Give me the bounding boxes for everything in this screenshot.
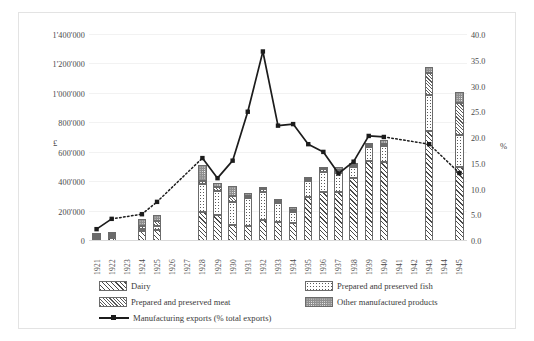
legend-label-dairy: Dairy (131, 281, 151, 291)
line-marker (200, 156, 204, 160)
line-segment (97, 219, 112, 229)
y-axis-left-tick: 800'000 (58, 119, 85, 128)
x-axis-tick: 1925 (153, 259, 162, 275)
y-axis-left-tick: 1'000'000 (52, 89, 85, 98)
y-axis-left-labels: 0200'000400'000600'000800'0001'000'0001'… (19, 35, 85, 241)
line-marker (336, 171, 340, 175)
line-segment (202, 158, 217, 178)
line-marker (276, 123, 280, 127)
y-axis-right-tick: 40.0 (471, 31, 485, 40)
line-segment (233, 112, 248, 161)
legend-swatch-fish-icon (305, 281, 333, 291)
line-marker (291, 122, 295, 126)
line-marker (94, 227, 98, 231)
line-segment (338, 162, 353, 174)
line-marker (382, 135, 386, 139)
line-segment (323, 152, 338, 174)
line-marker (367, 134, 371, 138)
line-marker (140, 212, 144, 216)
plot-area (89, 35, 467, 241)
legend-item-meat: Prepared and preserved meat (99, 297, 231, 307)
x-axis-tick: 1942 (410, 259, 419, 275)
y-axis-right-tick: 10.0 (471, 185, 485, 194)
y-axis-right-tick: 20.0 (471, 134, 485, 143)
x-axis-tick: 1926 (168, 259, 177, 275)
y-axis-right-tick: 15.0 (471, 159, 485, 168)
line-series (89, 35, 467, 241)
legend-row-2: Prepared and preserved meat Other manufa… (79, 297, 499, 313)
line-segment (248, 51, 263, 111)
x-axis-tick: 1922 (108, 259, 117, 275)
x-axis-tick: 1938 (350, 259, 359, 275)
line-marker (246, 110, 250, 114)
x-axis-labels: 1921192219231924192519261927192819291930… (89, 243, 467, 275)
legend-label-meat: Prepared and preserved meat (131, 297, 231, 307)
x-axis-tick: 1930 (229, 259, 238, 275)
chart-legend: Dairy Prepared and preserved fish Prepar… (79, 281, 499, 329)
line-segment (278, 124, 293, 126)
y-axis-left-tick: 600'000 (58, 148, 85, 157)
line-segment (142, 202, 157, 214)
x-axis-tick: 1943 (425, 259, 434, 275)
line-segment (112, 214, 142, 219)
line-segment (218, 161, 233, 179)
legend-label-fish: Prepared and preserved fish (337, 281, 433, 291)
x-axis-tick: 1940 (380, 259, 389, 275)
line-marker (351, 159, 355, 163)
line-marker (230, 158, 234, 162)
legend-item-fish: Prepared and preserved fish (305, 281, 433, 291)
line-segment (429, 144, 459, 173)
line-marker (261, 49, 265, 53)
x-axis-tick: 1932 (259, 259, 268, 275)
chart-frame: 0200'000400'000600'000800'0001'000'0001'… (18, 12, 516, 329)
line-segment (293, 124, 308, 144)
y-axis-left-tick: 0 (81, 237, 85, 246)
line-segment (263, 51, 278, 125)
legend-row-3: Manufacturing exports (% total exports) (79, 313, 499, 329)
y-axis-right-tick: 5.0 (471, 211, 481, 220)
legend-line-marker-icon (99, 314, 129, 322)
x-axis-line (89, 240, 467, 241)
line-segment (369, 136, 384, 137)
legend-swatch-other-icon (305, 297, 333, 307)
legend-label-other: Other manufactured products (337, 297, 438, 307)
legend-swatch-meat-icon (99, 297, 127, 307)
x-axis-tick: 1933 (274, 259, 283, 275)
line-marker (215, 176, 219, 180)
line-segment (157, 158, 202, 202)
line-segment (308, 144, 323, 152)
line-segment (354, 136, 369, 162)
x-axis-tick: 1927 (183, 259, 192, 275)
y-axis-right-labels: 0.05.010.015.020.025.030.035.040.0 (471, 35, 511, 241)
legend-row-1: Dairy Prepared and preserved fish (79, 281, 499, 297)
y-axis-right-tick: 30.0 (471, 82, 485, 91)
y-axis-left-tick: 1'200'000 (52, 60, 85, 69)
x-axis-tick: 1923 (123, 259, 132, 275)
legend-swatch-dairy-icon (99, 281, 127, 291)
y-axis-right-tick: 0.0 (471, 237, 481, 246)
x-axis-tick: 1939 (365, 259, 374, 275)
x-axis-tick: 1935 (304, 259, 313, 275)
x-axis-tick: 1928 (198, 259, 207, 275)
y-axis-right-unit: % (500, 141, 507, 151)
x-axis-tick: 1921 (93, 259, 102, 275)
legend-item-dairy: Dairy (99, 281, 151, 291)
y-axis-right-tick: 35.0 (471, 56, 485, 65)
x-axis-tick: 1924 (138, 259, 147, 275)
y-axis-left-tick: 400'000 (58, 178, 85, 187)
line-marker (306, 142, 310, 146)
line-segment (384, 137, 429, 144)
x-axis-tick: 1944 (440, 259, 449, 275)
legend-item-other: Other manufactured products (305, 297, 438, 307)
line-marker (457, 171, 461, 175)
x-axis-tick: 1941 (395, 259, 404, 275)
line-marker (321, 150, 325, 154)
y-axis-left-tick: 200'000 (58, 207, 85, 216)
y-axis-left-tick: 1'400'000 (52, 31, 85, 40)
legend-label-manufacturing-exports: Manufacturing exports (% total exports) (133, 313, 271, 323)
line-marker (155, 200, 159, 204)
x-axis-tick: 1936 (319, 259, 328, 275)
line-marker (109, 217, 113, 221)
legend-item-manufacturing-exports: Manufacturing exports (% total exports) (99, 313, 271, 323)
x-axis-tick: 1934 (289, 259, 298, 275)
